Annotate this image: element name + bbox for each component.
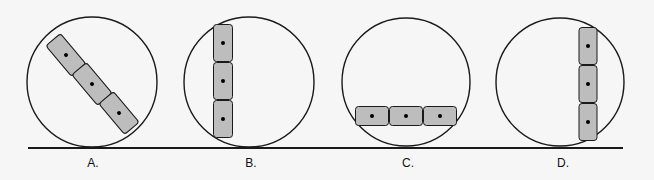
panel-label-c: C. [402, 156, 414, 170]
circle-outline [496, 18, 624, 146]
nucleus-dot [586, 120, 590, 124]
cell [356, 107, 389, 126]
cell [579, 104, 597, 141]
cell [390, 107, 423, 126]
nucleus-dot [221, 41, 225, 45]
panel-label-a: A. [87, 156, 98, 170]
panel-label-d: D. [557, 156, 569, 170]
panel-c [342, 18, 470, 146]
cell [214, 25, 233, 62]
cell [424, 107, 457, 126]
cell [214, 63, 233, 100]
circle-outline [184, 17, 314, 147]
nucleus-dot [438, 114, 442, 118]
cell [214, 101, 233, 138]
nucleus-dot [221, 117, 225, 121]
panel-label-b: B. [245, 156, 256, 170]
nucleus-dot [586, 44, 590, 48]
nucleus-dot [404, 114, 408, 118]
panel-a [27, 17, 157, 147]
diagram-stage: A. B. C. D. [0, 0, 654, 180]
cell [579, 28, 597, 65]
panels [27, 17, 624, 147]
panel-b [184, 17, 314, 147]
cell [579, 66, 597, 103]
circle-outline [342, 18, 470, 146]
panel-d [496, 18, 624, 146]
nucleus-dot [221, 79, 225, 83]
nucleus-dot [586, 82, 590, 86]
cell-orientation-diagram [0, 0, 654, 180]
nucleus-dot [370, 114, 374, 118]
